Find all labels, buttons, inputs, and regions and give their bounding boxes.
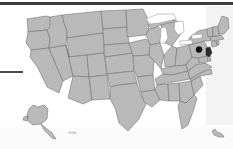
state-south-dakota[interactable]: [103, 27, 129, 45]
state-maine[interactable]: [218, 16, 229, 34]
state-alaska[interactable]: [23, 105, 56, 139]
state-arizona[interactable]: [68, 76, 92, 104]
map-caption: map: [68, 130, 77, 135]
state-kansas[interactable]: [105, 53, 134, 74]
state-alabama[interactable]: [168, 83, 180, 101]
state-iowa[interactable]: [129, 39, 151, 56]
state-north-dakota[interactable]: [101, 10, 127, 29]
state-colorado[interactable]: [87, 53, 107, 77]
us-states-map[interactable]: [0, 5, 233, 145]
state-vermont[interactable]: [207, 27, 213, 37]
location-marker-icon[interactable]: [196, 46, 202, 52]
state-minnesota[interactable]: [126, 9, 149, 37]
state-oregon[interactable]: [26, 30, 50, 50]
map-canvas: map: [0, 0, 233, 149]
state-new-jersey-highlighted[interactable]: [206, 47, 212, 57]
us-states-svg[interactable]: [0, 5, 233, 145]
lake-erie: [180, 40, 192, 45]
state-hawaii[interactable]: [212, 129, 224, 137]
state-missouri[interactable]: [133, 55, 154, 77]
lake-ontario: [192, 34, 202, 39]
state-arkansas[interactable]: [137, 75, 155, 92]
state-new-mexico[interactable]: [89, 75, 110, 100]
